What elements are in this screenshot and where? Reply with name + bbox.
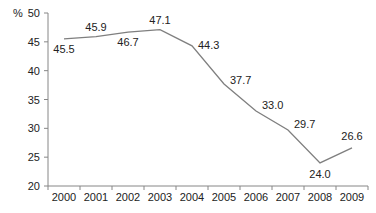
y-tick-label: 45 — [28, 36, 40, 48]
x-tick-label: 2007 — [276, 191, 300, 203]
x-tick-label: 2005 — [212, 191, 236, 203]
data-label: 37.7 — [230, 74, 251, 86]
data-label: 45.5 — [53, 43, 74, 55]
x-tick-label: 2003 — [148, 191, 172, 203]
x-tick-label: 2009 — [340, 191, 364, 203]
y-tick-label: 40 — [28, 65, 40, 77]
data-labels: 45.545.946.747.144.337.733.029.724.026.6 — [53, 14, 362, 180]
data-label: 46.7 — [117, 36, 138, 48]
y-tick-label: 50 — [28, 7, 40, 19]
x-axis: 2000200120022003200420052006200720082009 — [48, 186, 368, 203]
x-tick-label: 2004 — [180, 191, 204, 203]
data-label: 29.7 — [294, 118, 315, 130]
y-axis-unit-label: % — [13, 7, 23, 19]
data-label: 45.9 — [85, 21, 106, 33]
y-axis: 20253035404550 — [28, 7, 48, 192]
y-tick-label: 35 — [28, 94, 40, 106]
data-label: 24.0 — [309, 168, 330, 180]
y-tick-label: 20 — [28, 180, 40, 192]
data-label: 26.6 — [341, 130, 362, 142]
y-tick-label: 30 — [28, 122, 40, 134]
x-tick-label: 2000 — [52, 191, 76, 203]
x-tick-label: 2001 — [84, 191, 108, 203]
x-tick-label: 2002 — [116, 191, 140, 203]
y-tick-label: 25 — [28, 151, 40, 163]
data-label: 44.3 — [198, 39, 219, 51]
x-tick-label: 2006 — [244, 191, 268, 203]
data-label: 47.1 — [149, 14, 170, 26]
line-chart: % 20253035404550 20002001200220032004200… — [0, 0, 376, 213]
data-label: 33.0 — [262, 99, 283, 111]
x-tick-label: 2008 — [308, 191, 332, 203]
